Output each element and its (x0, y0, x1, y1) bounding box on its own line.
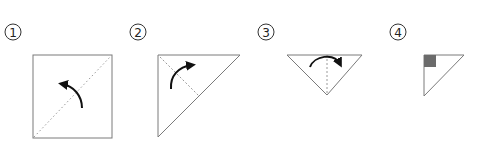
step-number-badge: 2 (130, 24, 146, 40)
gray-corner-marker (424, 55, 436, 67)
step-number: 2 (134, 26, 142, 40)
step-number-badge: 1 (5, 24, 21, 40)
step-number: 1 (9, 26, 17, 40)
step-2: 2 (130, 24, 240, 137)
step-number-badge: 4 (390, 24, 406, 40)
step-number-badge: 3 (258, 24, 274, 40)
step-number: 3 (262, 26, 270, 40)
folding-diagram: 1 2 3 4 (0, 0, 477, 161)
step-3: 3 (258, 24, 362, 95)
inverted-triangle-paper (287, 55, 362, 95)
step-1: 1 (5, 24, 112, 138)
square-paper (33, 55, 112, 138)
step-number: 4 (394, 26, 402, 40)
step-4: 4 (390, 24, 464, 96)
